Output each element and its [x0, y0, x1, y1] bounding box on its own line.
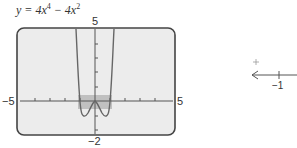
graph [0, 0, 297, 148]
x-min-label: −5 [2, 95, 15, 107]
y-min-label: −2 [88, 135, 101, 147]
number-line-tick-label: −1 [272, 80, 283, 91]
y-max-label: 5 [92, 15, 98, 27]
x-max-label: 5 [177, 95, 183, 107]
plus-icon [253, 59, 259, 65]
